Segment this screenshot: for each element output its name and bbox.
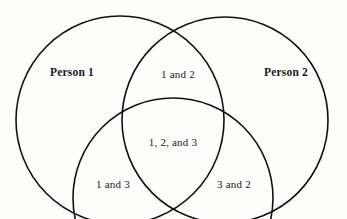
region-label-1-and-2: 1 and 2 <box>161 68 195 80</box>
region-label-3-and-2: 3 and 2 <box>217 178 251 190</box>
region-label-1-2-and-3: 1, 2, and 3 <box>149 136 197 148</box>
set-label-person-1: Person 1 <box>50 66 94 78</box>
venn-diagram: Person 1 Person 2 1 and 2 1, 2, and 3 1 … <box>0 0 347 219</box>
venn-circles-group <box>0 0 347 219</box>
set-label-person-2: Person 2 <box>264 66 308 78</box>
region-label-1-and-3: 1 and 3 <box>96 178 130 190</box>
circle-person-3 <box>73 98 273 219</box>
